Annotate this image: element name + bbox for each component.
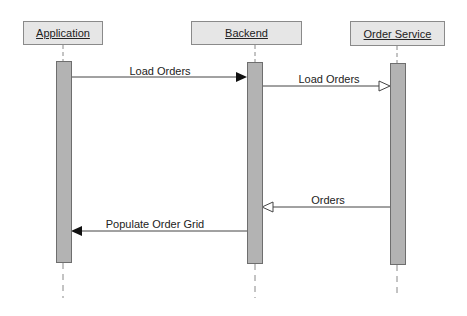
message-label: Populate Order Grid: [106, 218, 204, 230]
participant-backend[interactable]: Backend: [191, 21, 302, 45]
open-arrowhead-icon: [262, 202, 273, 212]
open-arrowhead-icon: [379, 81, 390, 91]
filled-arrowhead-icon: [71, 226, 82, 236]
message-label: Orders: [311, 194, 345, 206]
message-label: Load Orders: [298, 73, 359, 85]
activation-application: [56, 61, 72, 263]
message-label: Load Orders: [129, 65, 190, 77]
participant-application[interactable]: Application: [23, 21, 103, 45]
participant-order-service[interactable]: Order Service: [350, 21, 445, 46]
activation-backend: [247, 62, 263, 264]
filled-arrowhead-icon: [236, 72, 247, 82]
activation-order-service: [390, 63, 406, 265]
